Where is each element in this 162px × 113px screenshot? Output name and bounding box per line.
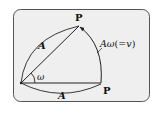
diagram-panel (14, 10, 150, 102)
label-angle-omega: ω (37, 72, 45, 82)
label-arc-length-close: ) (132, 38, 136, 49)
label-point-top: P (75, 12, 83, 23)
label-point-right: P (103, 85, 111, 96)
rotation-arc-diagram: P P A A ω Aω(=v) (0, 0, 162, 113)
label-arc-length-main: Aω (99, 38, 115, 49)
origin-point (20, 82, 22, 84)
label-radius-lower: A (57, 90, 66, 101)
label-radius-upper: A (37, 40, 46, 51)
label-arc-length-eq: (= (115, 38, 127, 49)
label-arc-length: Aω(=v) (99, 38, 135, 49)
